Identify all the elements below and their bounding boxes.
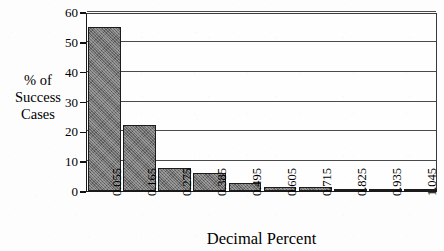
x-axis-tick-label: 1.045 — [425, 142, 440, 196]
y-axis-tick-label: 50 — [38, 35, 78, 51]
y-axis-tick-label: 40 — [38, 65, 78, 81]
x-axis-tick-label: 0.385 — [215, 142, 230, 196]
y-axis-tick-label: 20 — [38, 124, 78, 140]
y-axis-tick-label: 10 — [38, 154, 78, 170]
x-axis-tick-label: 0.165 — [145, 142, 160, 196]
x-axis-tick-label: 0.495 — [250, 142, 265, 196]
x-axis-tick-label: 0.825 — [355, 142, 370, 196]
x-axis-title: Decimal Percent — [86, 229, 437, 249]
x-axis-tick-label: 0.935 — [390, 142, 405, 196]
chart-figure: % of Success Cases 0102030405060 0.0550.… — [0, 0, 444, 251]
gridline — [87, 11, 436, 12]
y-axis-tick-label: 0 — [38, 184, 78, 200]
x-axis-tick-label: 0.605 — [285, 142, 300, 196]
y-axis-tick-label: 60 — [38, 5, 78, 21]
y-axis-tick-label: 30 — [38, 95, 78, 111]
x-axis-tick-label: 0.275 — [180, 142, 195, 196]
x-axis-tick-label: 0.055 — [110, 142, 125, 196]
x-axis-tick-label: 0.715 — [320, 142, 335, 196]
